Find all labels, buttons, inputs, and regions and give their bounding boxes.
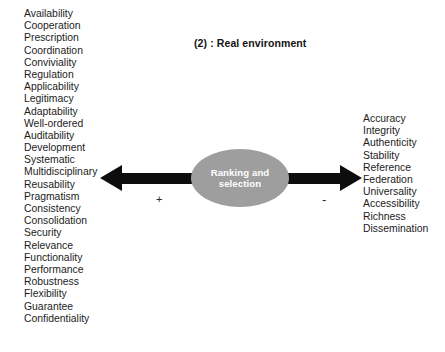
right-criteria-item: Richness: [363, 211, 428, 223]
left-criteria-item: Flexibility: [24, 288, 97, 300]
figure-title: (2) : Real environment: [194, 37, 306, 49]
left-criteria-item: Guarantee: [24, 301, 97, 313]
left-criteria-item: Adaptability: [24, 106, 97, 118]
arrow-pointing-right-icon: [288, 163, 362, 193]
node-label-line2: selection: [211, 178, 270, 190]
ranking-and-selection-node: Ranking and selection: [191, 149, 289, 207]
left-criteria-item: Pragmatism: [24, 191, 97, 203]
diagram-canvas: (2) : Real environment AvailabilityCoope…: [0, 0, 445, 352]
left-criteria-item: Auditability: [24, 130, 97, 142]
left-criteria-item: Coordination: [24, 45, 97, 57]
left-criteria-item: Robustness: [24, 276, 97, 288]
right-criteria-item: Integrity: [363, 125, 428, 137]
left-criteria-item: Availability: [24, 8, 97, 20]
left-criteria-item: Conviviality: [24, 57, 97, 69]
plus-sign-label: +: [156, 194, 162, 205]
right-criteria-item: Dissemination: [363, 223, 428, 235]
right-criteria-item: Stability: [363, 150, 428, 162]
left-criteria-item: Systematic: [24, 154, 97, 166]
left-criteria-item: Consolidation: [24, 215, 97, 227]
right-criteria-item: Accuracy: [363, 113, 428, 125]
left-criteria-item: Development: [24, 142, 97, 154]
left-criteria-item: Functionality: [24, 252, 97, 264]
left-criteria-item: Multidisciplinary: [24, 166, 97, 178]
left-criteria-item: Consistency: [24, 203, 97, 215]
right-criteria-item: Federation: [363, 174, 428, 186]
left-criteria-item: Regulation: [24, 69, 97, 81]
left-criteria-item: Relevance: [24, 240, 97, 252]
left-criteria-item: Well-ordered: [24, 118, 97, 130]
left-criteria-item: Legitimacy: [24, 93, 97, 105]
left-criteria-item: Prescription: [24, 32, 97, 44]
left-criteria-item: Performance: [24, 264, 97, 276]
right-criteria-item: Authenticity: [363, 137, 428, 149]
left-criteria-item: Cooperation: [24, 20, 97, 32]
node-label-line1: Ranking and: [211, 167, 270, 178]
minus-sign-label: -: [322, 194, 326, 205]
left-criteria-item: Confidentiality: [24, 313, 97, 325]
right-criteria-item: Reference: [363, 162, 428, 174]
ranking-and-selection-label: Ranking and selection: [211, 167, 270, 190]
left-criteria-item: Applicability: [24, 81, 97, 93]
arrow-pointing-left-icon: [100, 163, 192, 193]
left-criteria-list: AvailabilityCooperationPrescriptionCoord…: [24, 8, 97, 325]
right-criteria-item: Universality: [363, 186, 428, 198]
left-criteria-item: Security: [24, 227, 97, 239]
right-criteria-item: Accessibility: [363, 198, 428, 210]
left-criteria-item: Reusability: [24, 179, 97, 191]
right-criteria-list: AccuracyIntegrityAuthenticityStabilityRe…: [363, 113, 428, 235]
